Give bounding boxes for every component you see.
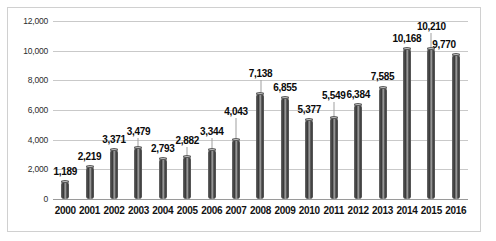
x-axis-tick-label: 2015 <box>421 205 442 216</box>
bar-cap <box>110 148 118 151</box>
x-axis-tick-label: 2007 <box>226 205 247 216</box>
chart-frame: 02,0004,0006,0008,00010,00012,000 1,1892… <box>7 7 481 232</box>
x-axis-tick-label: 2001 <box>79 205 100 216</box>
bar-slot <box>175 21 199 199</box>
bar-cap <box>256 92 264 95</box>
label-leader-line <box>333 102 334 116</box>
y-axis-tick-label: 2,000 <box>28 164 48 174</box>
bar-value-label: 5,377 <box>298 104 322 115</box>
bar-slot <box>395 21 419 199</box>
x-axis-tick-label: 2016 <box>445 205 466 216</box>
x-axis-tick-label: 2006 <box>201 205 222 216</box>
bar-value-label: 5,549 <box>322 90 346 101</box>
bar-value-label: 10,168 <box>393 33 422 44</box>
bar-value-label: 3,344 <box>200 126 224 137</box>
bar[interactable] <box>305 119 313 199</box>
bar-value-label: 4,043 <box>224 106 248 117</box>
bar[interactable] <box>159 158 167 199</box>
bar[interactable] <box>354 104 362 199</box>
bar-cap <box>330 116 338 119</box>
y-axis-tick-label: 8,000 <box>28 75 48 85</box>
bar-slot <box>199 21 223 199</box>
label-leader-line <box>138 138 139 146</box>
bar-value-label: 7,138 <box>249 68 273 79</box>
bar-cap <box>232 138 240 141</box>
bar-slot <box>273 21 297 199</box>
x-axis-tick-label: 2000 <box>55 205 76 216</box>
y-axis-tick-label: 0 <box>43 194 48 204</box>
bar[interactable] <box>281 97 289 199</box>
x-axis-tick-label: 2005 <box>177 205 198 216</box>
x-axis-tick-label: 2002 <box>103 205 124 216</box>
bar[interactable] <box>403 48 411 199</box>
bar[interactable] <box>232 139 240 199</box>
label-leader-line <box>211 138 212 148</box>
bar-cap <box>61 180 69 183</box>
bar-value-label: 10,210 <box>417 21 446 32</box>
x-axis-tick-label: 2013 <box>372 205 393 216</box>
bar-value-label: 7,585 <box>371 71 395 82</box>
x-axis-tick-label: 2014 <box>396 205 417 216</box>
x-axis-tick-label: 2003 <box>128 205 149 216</box>
axis-baseline <box>53 199 468 200</box>
bar-slot <box>370 21 394 199</box>
bar[interactable] <box>134 147 142 199</box>
bar-cap <box>134 146 142 149</box>
bar[interactable] <box>86 166 94 199</box>
bar-value-label: 3,479 <box>127 126 151 137</box>
label-leader-line <box>260 80 261 92</box>
bar[interactable] <box>183 156 191 199</box>
bar-slot <box>126 21 150 199</box>
bar-cap <box>183 155 191 158</box>
bar[interactable] <box>427 48 435 199</box>
bar-cap <box>379 86 387 89</box>
x-axis-tick-label: 2004 <box>152 205 173 216</box>
label-leader-line <box>236 118 237 138</box>
y-axis-tick-label: 10,000 <box>23 46 48 56</box>
bar-cap <box>281 96 289 99</box>
bar-cap <box>354 103 362 106</box>
bar[interactable] <box>208 149 216 199</box>
bar-value-label: 1,189 <box>53 166 77 177</box>
bar[interactable] <box>379 87 387 200</box>
bar-slot <box>151 21 175 199</box>
bar-value-label: 6,855 <box>273 82 297 93</box>
bar[interactable] <box>330 117 338 199</box>
bar-slot <box>346 21 370 199</box>
bar-cap <box>208 148 216 151</box>
bar-cap <box>305 118 313 121</box>
bar-value-label: 9,770 <box>432 39 456 50</box>
bar[interactable] <box>256 93 264 199</box>
bar-cap <box>159 157 167 160</box>
label-leader-line <box>187 147 188 155</box>
x-axis-tick-label: 2009 <box>274 205 295 216</box>
x-axis-tick-label: 2008 <box>250 205 271 216</box>
bar-value-label: 2,882 <box>175 135 199 146</box>
y-axis-tick-label: 6,000 <box>28 105 48 115</box>
x-axis-tick-label: 2012 <box>348 205 369 216</box>
bar-value-label: 6,384 <box>346 89 370 100</box>
bar-slot <box>102 21 126 199</box>
bar-cap <box>86 165 94 168</box>
y-axis-tick-label: 12,000 <box>23 16 48 26</box>
bar-slot <box>77 21 101 199</box>
bar[interactable] <box>61 181 69 199</box>
bar-cap <box>403 47 411 50</box>
plot-area: 02,0004,0006,0008,00010,00012,000 1,1892… <box>53 21 468 199</box>
bar-value-label: 2,793 <box>151 143 175 154</box>
bar[interactable] <box>452 54 460 199</box>
bar-value-label: 3,371 <box>102 134 126 145</box>
x-axis-tick-label: 2010 <box>299 205 320 216</box>
x-axis-tick-label: 2011 <box>323 205 344 216</box>
bar-value-label: 2,219 <box>78 151 102 162</box>
y-axis-tick-label: 4,000 <box>28 135 48 145</box>
bar-slot <box>248 21 272 199</box>
bar[interactable] <box>110 149 118 199</box>
bar-cap <box>452 53 460 56</box>
